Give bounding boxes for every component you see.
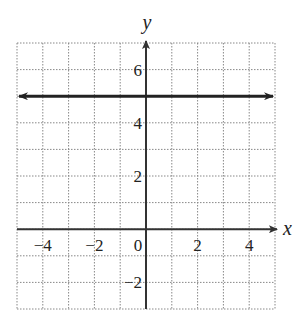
y-axis-label: y: [141, 11, 152, 34]
y-tick-label: 4: [134, 114, 143, 133]
y-tick-label: 2: [134, 167, 143, 186]
x-tick-label: 0: [134, 236, 143, 255]
axes: [17, 41, 277, 309]
x-axis-label: x: [282, 217, 292, 239]
y-tick-label: 6: [134, 61, 143, 80]
x-tick-label: −2: [85, 236, 103, 255]
x-tick-label: 4: [245, 236, 254, 255]
axis-labels: xy: [141, 11, 292, 239]
x-tick-label: 2: [193, 236, 202, 255]
graph: −4−2024−2246 xy: [0, 0, 305, 322]
x-tick-label: −4: [34, 236, 53, 255]
y-tick-label: −2: [124, 273, 142, 292]
